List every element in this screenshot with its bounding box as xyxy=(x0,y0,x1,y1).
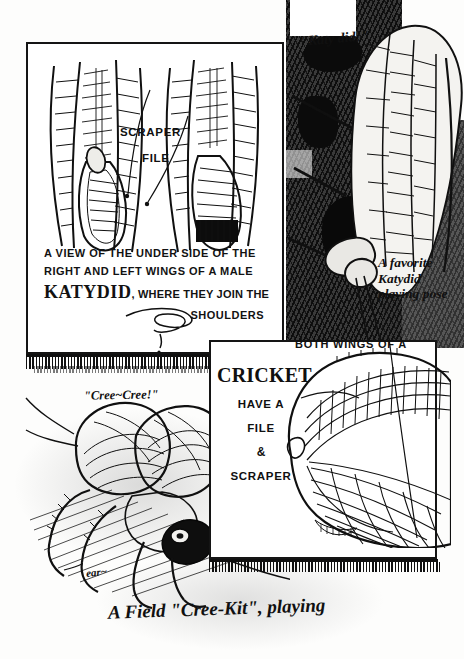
ear-label: ear~ xyxy=(85,565,107,579)
caption-line-2: RIGHT AND LEFT WINGS OF A MALE xyxy=(44,262,270,280)
cricket-list-item-2: & xyxy=(218,440,304,464)
panel-katydid-wing-bases: SCRAPER FILE A VIEW OF THE UNDER SIDE OF… xyxy=(26,42,284,354)
caption-katydid-word: KATYDID xyxy=(44,282,131,302)
cricket-panel-heading-small: BOTH WINGS OF A xyxy=(295,338,407,350)
cricket-comb-rule-icon xyxy=(209,562,440,572)
cricket-list-item-3: SCRAPER xyxy=(218,464,304,488)
cricket-feature-list: HAVE A FILE & SCRAPER xyxy=(218,392,304,488)
cricket-list-item-1: FILE xyxy=(218,416,304,440)
caption-line-1: A VIEW OF THE UNDER SIDE OF THE xyxy=(44,244,270,262)
scraper-leader-line xyxy=(128,90,150,194)
flourish-icon xyxy=(124,306,204,354)
label-file: FILE xyxy=(142,152,170,164)
label-scraper: SCRAPER xyxy=(120,126,181,138)
illustration-plate: SCRAPER FILE A VIEW OF THE UNDER SIDE OF… xyxy=(0,0,464,659)
katydid-pose-note: A favorite Katydid playing pose xyxy=(378,255,448,302)
caption-line-3-rest: , WHERE THEY JOIN THE xyxy=(131,288,269,300)
cricket-sound-bubble: "Cree~Cree!" xyxy=(84,387,159,403)
cricket-list-item-0: HAVE A xyxy=(218,392,304,416)
cricket-panel-heading-large: CRICKET xyxy=(217,364,312,387)
